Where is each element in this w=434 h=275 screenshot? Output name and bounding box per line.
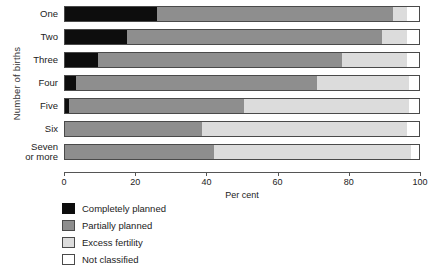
bar-segment-partially [98, 52, 342, 68]
legend-item[interactable]: Partially planned [62, 217, 166, 234]
stacked-bar-chart: Number of births OneTwoThreeFourFiveSixS… [0, 0, 434, 275]
bar-segment-partially [76, 75, 317, 91]
stacked-bar [64, 144, 420, 160]
x-tick-label: 20 [130, 177, 140, 187]
x-tick [278, 172, 279, 176]
x-axis-title: Per cent [64, 190, 420, 200]
bar-segment-notclass [407, 6, 420, 22]
legend-swatch-excess [62, 237, 75, 248]
bar-segment-completely [64, 75, 76, 91]
bar-segment-notclass [407, 121, 420, 137]
x-axis-line [64, 172, 420, 173]
bar-segment-partially [69, 98, 243, 114]
bar-segment-excess [244, 98, 410, 114]
bar-segment-partially [64, 144, 214, 160]
bar-segment-notclass [409, 98, 420, 114]
x-tick [64, 172, 65, 176]
category-label: Four [0, 78, 58, 89]
stacked-bar [64, 52, 420, 68]
category-label: Sevenor more [0, 142, 58, 163]
bar-segment-partially [127, 29, 382, 45]
bar-row [64, 98, 420, 114]
bar-row [64, 6, 420, 22]
category-label: Two [0, 32, 58, 43]
bar-segment-excess [214, 144, 412, 160]
x-tick [206, 172, 207, 176]
bar-segment-partially [157, 6, 393, 22]
bar-segment-excess [342, 52, 407, 68]
category-label: Five [0, 101, 58, 112]
bar-segment-partially [64, 121, 202, 137]
category-label: Six [0, 124, 58, 135]
x-tick-label: 0 [61, 177, 66, 187]
bar-segment-notclass [407, 29, 420, 45]
x-tick-label: 60 [273, 177, 283, 187]
legend-swatch-notclass [62, 254, 75, 265]
legend-item[interactable]: Completely planned [62, 200, 166, 217]
x-tick [349, 172, 350, 176]
stacked-bar [64, 29, 420, 45]
legend-item[interactable]: Excess fertility [62, 234, 166, 251]
bar-segment-excess [202, 121, 407, 137]
stacked-bar [64, 75, 420, 91]
stacked-bar [64, 121, 420, 137]
bar-row [64, 75, 420, 91]
category-label: One [0, 9, 58, 20]
bar-segment-completely [64, 6, 157, 22]
plot-area [64, 6, 420, 168]
bar-row [64, 121, 420, 137]
legend-item[interactable]: Not classified [62, 251, 166, 268]
x-tick [420, 172, 421, 176]
category-label: Three [0, 55, 58, 66]
bar-segment-notclass [409, 75, 420, 91]
legend-label: Completely planned [82, 203, 166, 214]
bar-segment-notclass [411, 144, 420, 160]
x-tick-label: 40 [201, 177, 211, 187]
legend-label: Not classified [82, 254, 139, 265]
bar-row [64, 144, 420, 160]
bar-segment-notclass [407, 52, 420, 68]
x-tick [135, 172, 136, 176]
bar-row [64, 52, 420, 68]
bar-segment-completely [64, 29, 127, 45]
bar-segment-excess [382, 29, 407, 45]
legend-swatch-completely [62, 203, 75, 214]
bar-segment-completely [64, 52, 98, 68]
bar-segment-excess [317, 75, 410, 91]
bar-row [64, 29, 420, 45]
stacked-bar [64, 6, 420, 22]
legend-swatch-partially [62, 220, 75, 231]
x-tick-label: 80 [344, 177, 354, 187]
legend-label: Excess fertility [82, 237, 143, 248]
legend-label: Partially planned [82, 220, 152, 231]
chart-legend: Completely plannedPartially plannedExces… [62, 200, 166, 268]
bar-segment-excess [393, 6, 407, 22]
stacked-bar [64, 98, 420, 114]
x-tick-label: 100 [412, 177, 427, 187]
